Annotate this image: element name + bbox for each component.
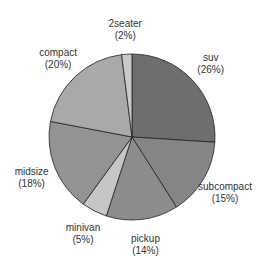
pie-chart: suv(26%)subcompact(15%)pickup(14%)miniva… [0,0,268,268]
slice-percent-suv: (26%) [197,64,224,75]
pie-slices [49,54,215,220]
slice-percent-compact: (20%) [45,59,72,70]
slice-label-compact: compact [39,47,77,58]
slice-percent-subcompact: (15%) [212,193,239,204]
slice-percent-pickup: (14%) [132,245,159,256]
slice-percent-2seater: (2%) [115,30,136,41]
slice-label-suv: suv [203,52,219,63]
slice-label-2seater: 2seater [109,18,143,29]
slice-percent-minivan: (5%) [72,234,93,245]
slice-label-pickup: pickup [131,233,160,244]
slice-label-minivan: minivan [66,222,100,233]
slice-label-midsize: midsize [15,166,49,177]
slice-percent-midsize: (18%) [18,178,45,189]
slice-label-subcompact: subcompact [198,181,252,192]
